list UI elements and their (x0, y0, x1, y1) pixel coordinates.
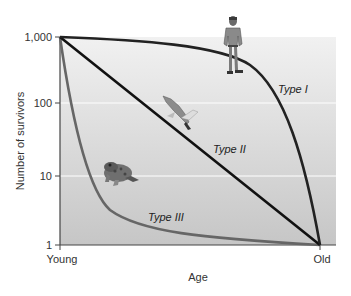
label-type-iii: Type III (148, 211, 184, 223)
label-type-i: Type I (278, 83, 308, 95)
x-axis-title: Age (188, 271, 208, 283)
y-tick-100: 100 (34, 97, 52, 109)
x-tick-young: Young (47, 253, 78, 265)
y-tick-10: 10 (40, 170, 52, 182)
y-tick-1000: 1,000 (24, 31, 52, 43)
survivorship-chart: 1,000 100 10 1 Young Old Age Number of s… (0, 0, 351, 296)
x-tick-old: Old (313, 253, 330, 265)
y-axis-title: Number of survivors (14, 91, 26, 190)
y-tick-1: 1 (46, 239, 52, 251)
label-type-ii: Type II (213, 143, 246, 155)
